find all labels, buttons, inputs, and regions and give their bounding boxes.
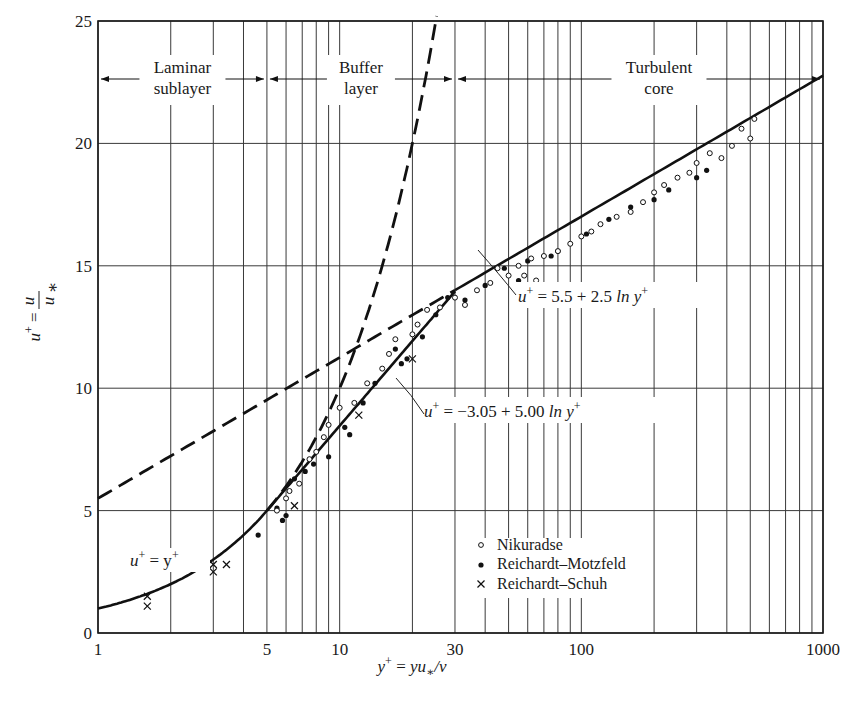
wall-law-chart: 1510301001000 0510152025 y+ = yu∗/ν u+ =… [0,0,862,708]
svg-text:∗: ∗ [43,281,62,293]
plot-frame [98,21,823,633]
data-points [144,116,757,609]
turbulent-curve [455,76,823,291]
y-axis-ticks: 0510152025 [75,12,92,643]
svg-text:u: u [39,297,58,306]
x-tick-label: 10 [331,640,348,659]
x-axis-title: y+ = yu∗/ν [376,654,447,679]
y-tick-label: 0 [84,624,93,643]
series-reichardt-motzfeld [256,168,710,538]
svg-text:u: u [19,297,38,306]
log-law-extension-dashed [98,290,455,498]
y-tick-label: 25 [75,12,92,31]
y-axis-title: u+ = u u ∗ [19,281,62,341]
legend-item-reichardt-motzfeld: Reichardt–Motzfeld [478,555,625,572]
svg-text:Laminar: Laminar [154,58,212,77]
legend-item-reichardt-schuh: Reichardt–Schuh [478,575,608,592]
y-tick-label: 5 [84,502,93,521]
x-tick-label: 1000 [806,640,840,659]
legend: Nikuradse Reichardt–Motzfeld Reichardt–S… [476,536,640,598]
y-tick-label: 20 [75,134,92,153]
turbulent-equation: u+ = 5.5 + 2.5 ln y+ [518,284,648,306]
region-turbulent: Turbulentcore [458,55,820,105]
filled-circle-marker-icon [478,562,483,567]
series-nikuradse [274,116,756,513]
svg-text:Reichardt–Schuh: Reichardt–Schuh [497,575,607,592]
x-tick-label: 1 [94,640,103,659]
svg-text:sublayer: sublayer [154,79,212,98]
svg-text:Nikuradse: Nikuradse [497,536,563,553]
figure-caption-cropped [0,696,862,708]
x-tick-label: 30 [446,640,463,659]
equation-annotations: u+ = 5.5 + 2.5 ln y+ u+ = −3.05 + 5.00 l… [128,250,710,572]
buffer-equation: u+ = −3.05 + 5.00 ln y+ [424,399,581,421]
svg-text:u+ =: u+ = [22,312,44,341]
x-tick-label: 5 [263,640,272,659]
x-tick-label: 100 [569,640,595,659]
svg-text:y+ = yu∗/ν: y+ = yu∗/ν [376,654,447,679]
x-axis-ticks: 1510301001000 [94,640,840,659]
grid-lines [98,21,823,633]
svg-text:Turbulent: Turbulent [626,58,693,77]
region-laminar: Laminarsublayer [101,55,264,105]
svg-text:Buffer: Buffer [339,58,383,77]
svg-text:core: core [644,79,673,98]
svg-text:layer: layer [344,79,378,98]
y-tick-label: 10 [75,379,92,398]
y-tick-label: 15 [75,257,92,276]
svg-text:Reichardt–Motzfeld: Reichardt–Motzfeld [497,555,626,572]
laminar-equation: u+ = y+ [130,548,179,570]
region-brackets: LaminarsublayerBufferlayerTurbulentcore [101,55,820,105]
